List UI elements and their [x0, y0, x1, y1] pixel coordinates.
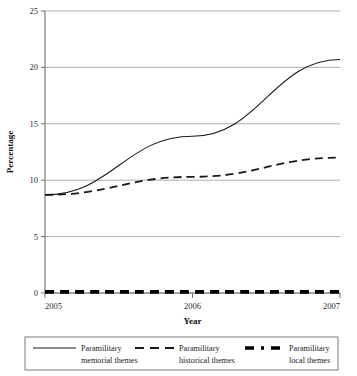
y-tick-label-5: 5 [34, 232, 38, 242]
y-tick-label-20: 20 [30, 62, 39, 72]
y-tickmarks [41, 11, 45, 293]
legend-border [25, 337, 338, 370]
legend-label-historical-line2: historical themes [179, 356, 235, 365]
y-axis-title: Percentage [5, 131, 15, 173]
legend-label-local-line2: local themes [289, 356, 330, 365]
series-line-historical [45, 158, 340, 195]
y-tick-label-15: 15 [30, 119, 39, 129]
legend-item-local[interactable]: Paramilitary local themes [245, 344, 330, 365]
legend-label-memorial-line1: Paramilitary [81, 344, 122, 353]
legend-item-historical[interactable]: Paramilitary historical themes [135, 344, 235, 365]
gridlines [45, 11, 340, 293]
y-tick-label-10: 10 [30, 175, 39, 185]
x-tick-label-2005: 2005 [45, 301, 62, 311]
legend-label-local-line1: Paramilitary [289, 344, 330, 353]
x-axis-title: Year [184, 316, 202, 326]
x-tick-label-2007: 2007 [323, 301, 340, 311]
y-tick-label-25: 25 [30, 6, 39, 16]
legend-label-historical-line1: Paramilitary [179, 344, 220, 353]
series-line-memorial [45, 60, 340, 195]
legend: Paramilitary memorial themes Paramilitar… [25, 337, 338, 370]
x-tickmarks [45, 293, 340, 298]
x-tick-label-2006: 2006 [184, 301, 201, 311]
legend-label-memorial-line2: memorial themes [81, 356, 138, 365]
legend-item-memorial[interactable]: Paramilitary memorial themes [33, 344, 138, 365]
line-chart-svg: 25 20 15 10 5 0 2005 2006 2007 Year Perc… [0, 0, 357, 376]
y-tick-label-0: 0 [34, 288, 38, 298]
